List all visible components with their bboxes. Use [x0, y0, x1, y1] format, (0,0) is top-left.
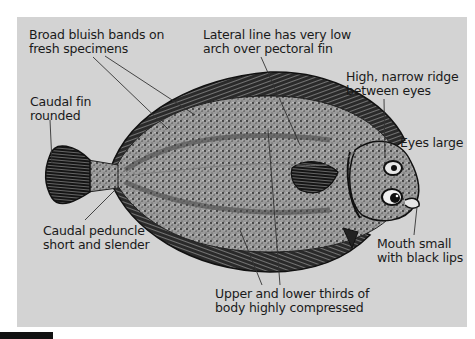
label-lateral-line: Lateral line has very low arch over pect… [203, 28, 351, 56]
label-peduncle: Caudal peduncle short and slender [43, 224, 150, 252]
label-eyes: Eyes large [400, 136, 463, 150]
footer-bar [0, 332, 53, 339]
label-caudal-fin: Caudal fin rounded [30, 95, 91, 123]
label-bluish-bands: Broad bluish bands on fresh specimens [29, 28, 164, 56]
label-compressed: Upper and lower thirds of body highly co… [215, 287, 369, 315]
caudal-fin [46, 146, 90, 204]
label-ridge: High, narrow ridge between eyes [346, 70, 458, 98]
caudal-peduncle [88, 160, 118, 192]
mouth [405, 198, 419, 208]
label-mouth: Mouth small with black lips [377, 237, 463, 265]
fish-head [350, 141, 419, 220]
